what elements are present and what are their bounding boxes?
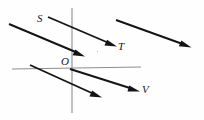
label-t: T (118, 41, 124, 52)
label-s: S (37, 13, 43, 24)
diagram-canvas (0, 0, 204, 120)
arrow-head-v (128, 86, 141, 92)
page-speck (97, 51, 98, 52)
arrow-head-top-right (179, 40, 192, 47)
label-o: O (61, 56, 69, 67)
label-v: V (142, 84, 149, 95)
geometry-diagram: S T O V (0, 0, 204, 120)
ray-lower-left (30, 65, 102, 98)
arrow-head-lower-left (89, 91, 102, 98)
arrow-head-t (104, 40, 117, 47)
horizontal-axis (12, 67, 141, 69)
ray-s-to-t (48, 17, 117, 47)
ray-group (9, 17, 192, 98)
ray-top-right (116, 20, 192, 48)
axis-group (12, 8, 141, 113)
